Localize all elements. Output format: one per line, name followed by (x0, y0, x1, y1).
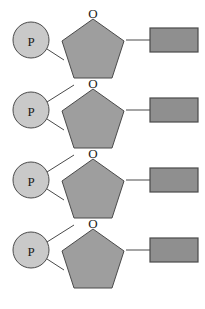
sugar-pentagon-icon-3 (62, 159, 124, 218)
nucleotide-unit-3: P O (13, 146, 198, 219)
nucleotide-unit-2: P O (13, 76, 198, 149)
nitrogenous-base-rect-icon-1 (150, 28, 198, 52)
phosphate-label-4: P (27, 244, 34, 259)
backbone-svg-canvas: P O P O P O (0, 0, 205, 309)
nucleotide-unit-1: P O (13, 6, 198, 79)
nucleotide-unit-4: P O (13, 216, 198, 289)
sugar-pentagon-icon-2 (62, 89, 124, 148)
nitrogenous-base-rect-icon-3 (150, 168, 198, 192)
sugar-pentagon-icon-4 (62, 229, 124, 288)
bond-phosphate3-to-sugar3 (47, 189, 64, 200)
bond-phosphate1-to-sugar1 (47, 49, 64, 60)
oxygen-label-1: O (88, 6, 97, 21)
phosphate-label-1: P (27, 34, 34, 49)
phosphate-label-3: P (27, 174, 34, 189)
nitrogenous-base-rect-icon-2 (150, 98, 198, 122)
sugar-pentagon-icon-1 (62, 19, 124, 78)
oxygen-label-3: O (88, 146, 97, 161)
phosphate-label-2: P (27, 104, 34, 119)
bond-phosphate3-to-sugar2 (47, 155, 74, 172)
nitrogenous-base-rect-icon-4 (150, 238, 198, 262)
bond-phosphate2-to-sugar2 (47, 119, 64, 130)
backbone-diagram: P O P O P O (0, 0, 205, 309)
oxygen-label-2: O (88, 76, 97, 91)
bond-phosphate4-to-sugar3 (47, 225, 74, 242)
bond-phosphate2-to-sugar1 (47, 85, 74, 102)
oxygen-label-4: O (88, 216, 97, 231)
bond-phosphate4-to-sugar4 (47, 259, 64, 270)
